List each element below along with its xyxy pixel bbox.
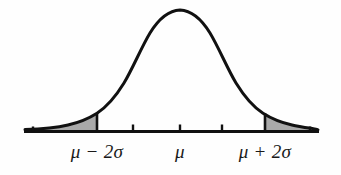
axis-label-mu-plus-2sigma: μ + 2σ (239, 142, 292, 161)
axis-label-mu: μ (175, 142, 185, 161)
normal-curve-figure: μ − 2σ μ μ + 2σ (0, 0, 341, 175)
axis-label-mu-minus-2sigma: μ − 2σ (71, 142, 124, 161)
bell-curve (25, 10, 318, 130)
